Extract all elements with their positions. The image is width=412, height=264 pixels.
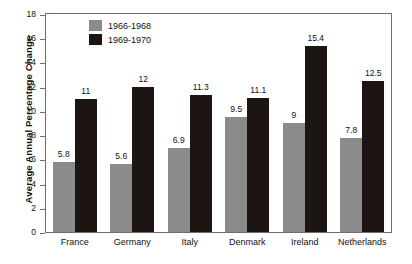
y-axis-tick-label: 8 [31,130,36,140]
y-axis-tick-label: 10 [27,106,36,116]
y-axis-tick-label: 18 [27,9,36,19]
legend-item: 1966-1968 [89,19,151,32]
x-axis-label: Netherlands [334,237,392,247]
x-axis-label: Denmark [219,237,277,247]
legend-swatch [89,20,102,31]
y-axis-tick-mark [40,209,45,210]
bar: 12.5 [362,81,384,232]
y-axis-tick-mark [40,233,45,234]
y-axis-tick-mark [40,185,45,186]
y-axis-tick-mark [40,112,45,113]
bar: 9 [283,123,305,232]
bar-value-label: 15.4 [307,33,324,43]
bar-value-label: 6.9 [173,135,185,145]
bar-group: 7.812.5 [340,14,384,232]
bar-value-label: 5.8 [58,149,70,159]
y-axis-tick-mark [40,160,45,161]
bar-value-label: 11 [81,86,90,96]
legend: 1966-19681969-1970 [89,19,151,47]
y-axis-tick-mark [40,15,45,16]
y-axis-tick-label: 2 [31,203,36,213]
y-axis-tick-label: 6 [31,154,36,164]
bar-value-label: 12.5 [365,68,382,78]
bar: 12 [132,87,154,232]
bar: 15.4 [305,46,327,233]
bar-value-label: 5.6 [115,151,127,161]
bar: 9.5 [225,117,247,232]
y-axis-tick-label: 4 [31,179,36,189]
bar-value-label: 9 [291,110,296,120]
bar-value-label: 9.5 [230,104,242,114]
legend-label: 1966-1968 [108,21,151,31]
bar: 11.3 [190,95,212,232]
bar: 5.6 [110,164,132,232]
x-axis-label: Italy [161,237,219,247]
bar: 11 [75,99,97,232]
bar-group: 9.511.1 [225,14,269,232]
y-axis-tick-mark [40,63,45,64]
x-axis-label: France [46,237,104,247]
bar: 5.8 [53,162,75,232]
legend-swatch [89,34,102,45]
y-axis-tick-mark [40,136,45,137]
y-axis-tick-mark [40,88,45,89]
bar-value-label: 7.8 [345,125,357,135]
legend-label: 1969-1970 [108,35,151,45]
x-axis-label: Ireland [276,237,334,247]
bar-chart: Average Annual Percentage Change 0246810… [0,0,412,264]
bar-group: 6.911.3 [168,14,212,232]
bar-value-label: 11.3 [193,82,209,92]
y-axis-tick-label: 14 [27,57,36,67]
y-axis-tick-label: 16 [27,33,36,43]
y-axis-title: Average Annual Percentage Change [23,20,34,220]
bar: 6.9 [168,148,190,232]
bar-group: 915.4 [283,14,327,232]
x-axis-label: Germany [104,237,162,247]
legend-item: 1969-1970 [89,33,151,46]
bar-value-label: 11.1 [250,85,266,95]
bar: 7.8 [340,138,362,232]
y-axis-tick-label: 0 [31,227,36,237]
bar-value-label: 12 [139,74,148,84]
y-axis-tick-label: 12 [27,82,36,92]
bar: 11.1 [247,98,269,232]
y-axis-tick-mark [40,39,45,40]
